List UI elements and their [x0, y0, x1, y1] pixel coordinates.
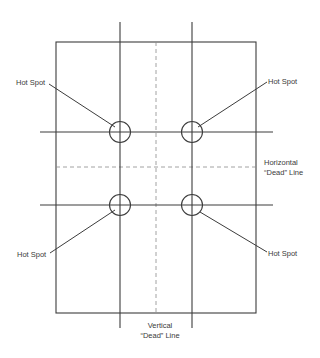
- leader-line-top-left: [49, 84, 115, 127]
- vertical-dead-line-label-line1: Vertical: [130, 321, 190, 331]
- leader-line-bottom-left: [50, 210, 115, 253]
- horizontal-dead-line-label-line2: “Dead” Line: [264, 168, 303, 178]
- hot-spot-label-bottom-right: Hot Spot: [268, 249, 297, 259]
- diagram-canvas: [0, 0, 320, 358]
- leader-line-top-right: [198, 82, 267, 127]
- vertical-dead-line-label-line2: “Dead” Line: [130, 331, 190, 341]
- leader-line-bottom-right: [200, 212, 267, 252]
- hot-spot-label-top-right: Hot Spot: [268, 77, 297, 87]
- vertical-dead-line-label: Vertical “Dead” Line: [130, 321, 190, 341]
- horizontal-dead-line-label: Horizontal “Dead” Line: [264, 158, 303, 178]
- rule-of-thirds-diagram: Hot Spot Hot Spot Hot Spot Hot Spot Hori…: [0, 0, 320, 358]
- hot-spot-label-top-left: Hot Spot: [16, 78, 45, 88]
- horizontal-dead-line-label-line1: Horizontal: [264, 158, 303, 168]
- hot-spot-label-bottom-left: Hot Spot: [17, 250, 46, 260]
